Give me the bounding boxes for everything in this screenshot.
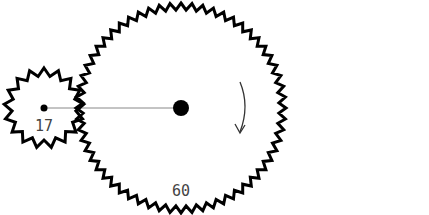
large-gear-teeth-label: 60	[172, 182, 190, 200]
gear-diagram: 17 60	[0, 0, 429, 215]
clockwise-rotation-arrow-icon	[240, 82, 245, 132]
small-gear-teeth-label: 17	[35, 117, 53, 135]
small-gear-hub	[41, 105, 48, 112]
gear-diagram-canvas: 17 60	[0, 0, 429, 215]
large-gear-hub	[173, 100, 189, 116]
